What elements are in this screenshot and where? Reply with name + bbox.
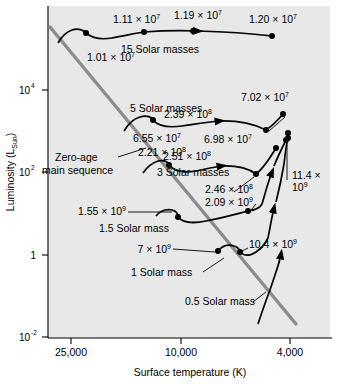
label-1p55e9: 1.55 × 10 xyxy=(78,205,122,217)
y-axis-title-sub: Sun xyxy=(11,136,18,149)
track-5-point-1 xyxy=(150,117,156,123)
y-tick-label-10e4: 10 xyxy=(19,85,31,96)
track-1-point-1 xyxy=(215,248,221,254)
label-2p51e8: 2.51 × 10 xyxy=(163,150,207,162)
track-1-point-3 xyxy=(285,135,291,141)
label-7p02e7: 7.02 × 10 xyxy=(241,91,285,103)
track-1p5-point-1 xyxy=(175,214,181,220)
track-3-point-3 xyxy=(273,145,279,151)
svg-text:7 × 109: 7 × 109 xyxy=(138,243,172,255)
label-2p09e9: 2.09 × 10 xyxy=(205,196,249,208)
svg-text:2.09 × 109: 2.09 × 109 xyxy=(205,196,253,208)
svg-text:2.39 × 108: 2.39 × 108 xyxy=(164,108,212,120)
x-tick-label-25000: 25,000 xyxy=(55,346,87,358)
label-15-solar-masses: 15 Solar masses xyxy=(121,43,199,55)
label-3-solar-masses: 3 Solar masses xyxy=(157,166,229,178)
label-zams-line2: main sequence xyxy=(42,164,113,176)
svg-text:10.4 × 109: 10.4 × 109 xyxy=(249,238,297,250)
x-axis-title: Surface temperature (K) xyxy=(134,366,247,378)
label-1p19e7: 1.19 × 10 xyxy=(174,9,218,21)
svg-text:6.55 × 107: 6.55 × 107 xyxy=(133,132,181,144)
y-tick-exp-10em2: -2 xyxy=(31,329,37,336)
svg-text:1.20 × 107: 1.20 × 107 xyxy=(249,13,297,25)
label-2p46e8: 2.46 × 10 xyxy=(205,183,249,195)
hr-diagram-svg: 10 4 10 2 1 10 -2 25,000 10,000 4,000 Su… xyxy=(0,0,338,384)
label-1p55e9-exp: 9 xyxy=(122,205,126,212)
label-7e9: 7 × 10 xyxy=(138,243,168,255)
label-1p11e7-exp: 7 xyxy=(156,13,160,20)
label-11p4-e9-exp: 9 xyxy=(304,181,308,188)
y-tick-label-10em2: 10 xyxy=(19,332,31,343)
y-tick-label-10e2: 10 xyxy=(19,167,31,178)
label-2p39e8: 2.39 × 10 xyxy=(164,108,208,120)
label-1p11e7: 1.11 × 10 xyxy=(113,13,156,25)
svg-text:1.19 × 107: 1.19 × 107 xyxy=(174,9,222,21)
label-1p5-solar-mass: 1.5 Solar mass xyxy=(99,222,169,234)
label-7e9-exp: 9 xyxy=(167,243,171,250)
svg-text:2.46 × 108: 2.46 × 108 xyxy=(205,183,253,195)
y-axis-title-end: ) xyxy=(4,133,16,137)
label-zams-line1: Zero-age xyxy=(55,151,98,163)
label-1p20e7: 1.20 × 10 xyxy=(249,13,293,25)
label-1p20e7-exp: 7 xyxy=(293,13,297,20)
label-2p39e8-exp: 8 xyxy=(208,108,212,115)
label-2p51e8-exp: 8 xyxy=(207,150,211,157)
track-5-point-2 xyxy=(263,127,269,133)
y-axis-title-main: Luminosity (L xyxy=(4,149,16,212)
track-5-point-3 xyxy=(280,111,286,117)
svg-text:7.02 × 107: 7.02 × 107 xyxy=(241,91,289,103)
label-2p46e8-exp: 8 xyxy=(249,183,253,190)
label-7p02e7-exp: 7 xyxy=(285,91,289,98)
label-10p4e9-exp: 9 xyxy=(293,238,297,245)
label-2p09e9-exp: 9 xyxy=(249,196,253,203)
label-1p19e7-exp: 7 xyxy=(218,9,222,16)
label-0p5-solar-mass: 0.5 Solar mass xyxy=(185,295,255,307)
svg-text:1.55 × 109: 1.55 × 109 xyxy=(78,205,126,217)
y-tick-label-1: 1 xyxy=(30,250,36,261)
track-15-point-4 xyxy=(269,33,275,39)
svg-text:6.98 × 107: 6.98 × 107 xyxy=(204,133,252,145)
label-6p55e7-exp: 7 xyxy=(177,132,181,139)
x-tick-label-4000: 4,000 xyxy=(277,346,303,358)
track-15-point-1 xyxy=(83,30,89,36)
track-3-point-2 xyxy=(253,171,259,177)
y-tick-exp-10e4: 4 xyxy=(31,82,35,89)
label-6p98e7-exp: 7 xyxy=(248,133,252,140)
label-11p4: 11.4 × xyxy=(292,169,321,181)
svg-text:2.51 × 108: 2.51 × 108 xyxy=(163,150,211,162)
label-6p98e7: 6.98 × 10 xyxy=(204,133,248,145)
hr-diagram-figure: 10 4 10 2 1 10 -2 25,000 10,000 4,000 Su… xyxy=(0,0,338,384)
label-11p4-e9: 10 xyxy=(292,181,304,193)
x-tick-label-10000: 10,000 xyxy=(165,346,197,358)
label-10p4e9: 10.4 × 10 xyxy=(249,238,293,250)
svg-text:1.11 × 107: 1.11 × 107 xyxy=(113,13,160,25)
track-15-point-2 xyxy=(141,29,147,35)
label-1-solar-mass: 1 Solar mass xyxy=(131,266,192,278)
track-15-point-3 xyxy=(190,28,196,34)
y-tick-exp-10e2: 2 xyxy=(31,164,35,171)
label-6p55e7: 6.55 × 10 xyxy=(133,132,177,144)
